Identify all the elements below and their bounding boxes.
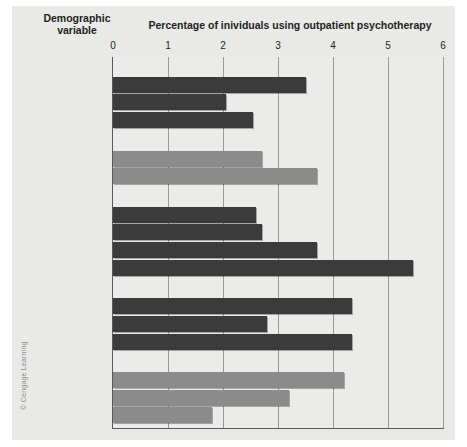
bar — [113, 242, 317, 258]
bar-row: Divorced/separated — [113, 334, 443, 350]
x-tick-label: 1 — [156, 40, 180, 51]
bar-row: None — [113, 407, 443, 423]
bar-row: Male — [113, 151, 443, 167]
bar — [113, 112, 253, 128]
bar — [113, 168, 317, 184]
gridline-6 — [443, 57, 444, 428]
bar-row: Black — [113, 94, 443, 110]
group-heading-row: Race/ethnicity — [113, 59, 443, 75]
bar — [113, 390, 289, 406]
demographic-header-line1: Demographic — [28, 12, 126, 24]
x-tick-label: 4 — [321, 40, 345, 51]
bar — [113, 151, 262, 167]
x-tick-label: 6 — [431, 40, 455, 51]
demographic-header-line2: variable — [28, 24, 126, 36]
chart-axis-title: Percentage of inividuals using outpatien… — [130, 19, 450, 31]
bar — [113, 260, 413, 276]
bar-row: Married — [113, 316, 443, 332]
x-tick-label: 3 — [266, 40, 290, 51]
bar-row: Hispanic — [113, 112, 443, 128]
copyright-credit: © Cengage Learning — [20, 336, 27, 416]
bar — [113, 207, 256, 223]
x-tick-label: 2 — [211, 40, 235, 51]
bar-row: Not married — [113, 298, 443, 314]
group-heading-row: Sex — [113, 133, 443, 149]
bar-row: 13–16 years — [113, 242, 443, 258]
bar-row: 17 years and over — [113, 260, 443, 276]
bar-row: Under 12 years — [113, 207, 443, 223]
bar — [113, 316, 267, 332]
group-heading-row: Health insurance — [113, 355, 443, 371]
bar — [113, 372, 344, 388]
plot-area: 0123456Race/ethnicityWhiteBlackHispanicS… — [112, 57, 444, 429]
group-heading-row: Marital status — [113, 281, 443, 297]
bar — [113, 77, 306, 93]
chart-figure: © Cengage Learning Demographic variable … — [0, 0, 467, 447]
bar — [113, 224, 262, 240]
bar — [113, 334, 352, 350]
bar — [113, 94, 226, 110]
x-tick-label: 0 — [101, 40, 125, 51]
bar-row: White — [113, 77, 443, 93]
bar-row: Female — [113, 168, 443, 184]
demographic-variable-header: Demographic variable — [28, 12, 126, 36]
bar-row: 12 years — [113, 224, 443, 240]
bar — [113, 407, 212, 423]
bar — [113, 298, 352, 314]
x-tick-label: 5 — [376, 40, 400, 51]
bar-row: Private — [113, 390, 443, 406]
bar-row: Public — [113, 372, 443, 388]
group-heading-row: Education — [113, 189, 443, 205]
